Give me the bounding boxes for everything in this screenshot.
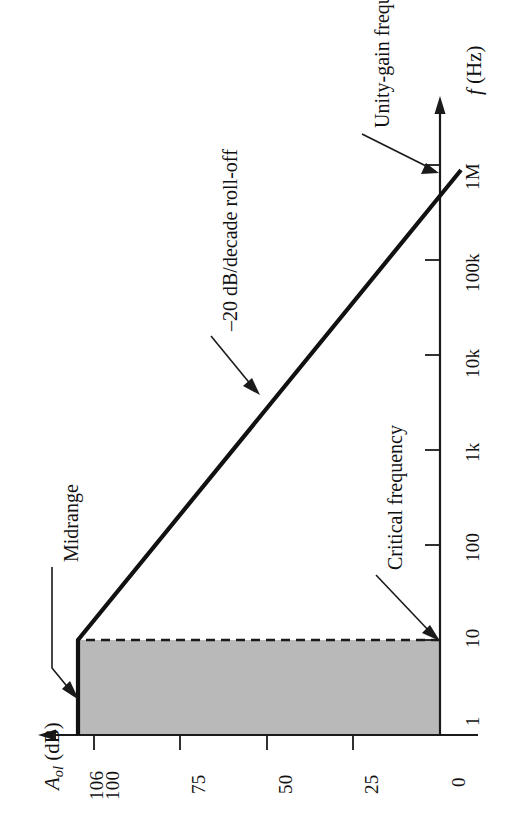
freq-tick-label-1: 1 [462, 716, 484, 726]
freq-tick-label-10k: 10k [462, 349, 484, 378]
bode-plot-figure: Aol (dB) 106 100 75 50 25 0 f (Hz) 1 10 … [0, 0, 515, 830]
freq-tick-label-1M: 1M [462, 163, 484, 190]
freq-tick-label-10: 10 [462, 629, 484, 648]
frequency-axis-arrowhead [435, 96, 446, 114]
annotation-critical-frequency: Critical frequency [384, 425, 407, 570]
gain-tick-label-0: 0 [448, 777, 470, 787]
plot-canvas [0, 0, 515, 830]
critical-frequency-leader [376, 575, 440, 641]
freq-tick-label-1k: 1k [462, 443, 484, 462]
frequency-ticks [425, 165, 440, 640]
gain-axis-title: Aol (dB) [40, 722, 67, 790]
gain-axis-title-symbol: A [40, 777, 64, 790]
frequency-axis-title-unit: (Hz) [462, 45, 486, 89]
rolloff-leader [211, 336, 260, 395]
frequency-axis-title: f (Hz) [462, 45, 487, 95]
unity-gain-text: Unity-gain frequency ( [371, 0, 393, 128]
gain-ticks [94, 735, 353, 750]
gain-tick-label-25: 25 [361, 775, 383, 794]
freq-tick-label-100: 100 [462, 533, 484, 562]
gain-axis-title-subscript: ol [50, 766, 66, 777]
midrange-shaded-region [78, 640, 440, 735]
unity-gain-leader [362, 134, 439, 174]
gain-axis-title-unit: (dB) [40, 722, 64, 766]
gain-tick-label-75: 75 [188, 775, 210, 794]
gain-tick-label-50: 50 [275, 775, 297, 794]
midrange-leader [52, 567, 79, 700]
annotation-rolloff: –20 dB/decade roll-off [219, 149, 242, 331]
annotation-midrange: Midrange [60, 484, 83, 562]
frequency-axis-title-symbol: f [462, 89, 486, 95]
gain-tick-label-100: 100 [102, 771, 124, 800]
annotation-unity-gain-frequency: Unity-gain frequency (fT) [371, 0, 397, 128]
freq-tick-label-100k: 100k [462, 253, 484, 292]
